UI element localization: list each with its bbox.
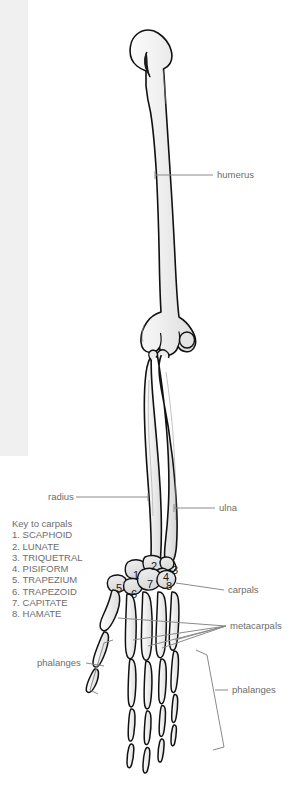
label-phalanges-left: phalanges xyxy=(37,657,81,668)
key-item: 3. TRIQUETRAL xyxy=(12,552,83,563)
carpal-number-1: 1 xyxy=(133,569,139,581)
key-list: 1. SCAPHOID 2. LUNATE 3. TRIQUETRAL 4. P… xyxy=(12,529,83,619)
key-item: 1. SCAPHOID xyxy=(12,529,83,540)
key-item: 2. LUNATE xyxy=(12,541,83,552)
key-to-carpals: Key to carpals 1. SCAPHOID 2. LUNATE 3. … xyxy=(12,518,83,620)
key-title: Key to carpals xyxy=(12,518,83,529)
diagram-page: humerus radius ulna carpals metacarpals … xyxy=(0,0,302,795)
metacarpal-bones xyxy=(100,590,179,660)
carpal-number-2: 2 xyxy=(151,560,157,572)
label-metacarpals: metacarpals xyxy=(230,620,282,631)
key-item: 4. PISIFORM xyxy=(12,563,83,574)
carpal-number-8: 8 xyxy=(166,580,172,592)
key-item: 8. HAMATE xyxy=(12,608,83,619)
carpal-number-6: 6 xyxy=(131,588,137,600)
key-item: 7. CAPITATE xyxy=(12,597,83,608)
label-ulna: ulna xyxy=(219,502,237,513)
phalanges-right-bracket xyxy=(196,650,224,750)
carpals-leader xyxy=(176,583,224,590)
key-item: 5. TRAPEZIUM xyxy=(12,574,83,585)
arm-skeleton-illustration xyxy=(0,0,302,795)
humerus-bone xyxy=(130,30,195,355)
carpal-number-3: 3 xyxy=(172,564,178,576)
radius-bone xyxy=(144,350,161,564)
key-item: 6. TRAPEZOID xyxy=(12,586,83,597)
label-radius: radius xyxy=(48,491,74,502)
label-carpals: carpals xyxy=(228,584,259,595)
carpal-number-5: 5 xyxy=(116,582,122,594)
carpal-number-7: 7 xyxy=(147,578,153,590)
label-phalanges-right: phalanges xyxy=(232,684,276,695)
label-humerus: humerus xyxy=(217,169,254,180)
